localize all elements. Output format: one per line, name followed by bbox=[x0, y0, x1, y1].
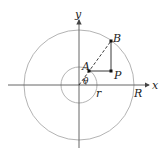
angle-label: θ bbox=[83, 76, 89, 86]
y-axis-label: y bbox=[74, 8, 82, 21]
point-p-label: P bbox=[113, 69, 122, 82]
diagram-canvas: y x A B P θ r R bbox=[0, 0, 163, 154]
inner-radius-label: r bbox=[96, 87, 102, 100]
point-b-label: B bbox=[112, 32, 121, 45]
point-a-label: A bbox=[81, 60, 90, 73]
outer-radius-label: R bbox=[133, 87, 142, 100]
x-axis-label: x bbox=[152, 79, 159, 92]
point-p-marker bbox=[110, 70, 113, 73]
